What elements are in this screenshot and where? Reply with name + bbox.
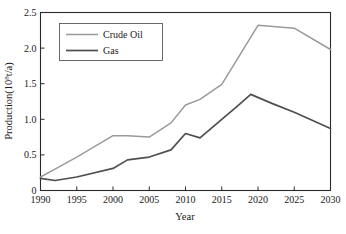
y-axis-ticks [41, 13, 45, 191]
x-tick-label-1995: 1995 [67, 194, 87, 205]
y-axis-tick-labels: 00.51.01.52.02.5 [24, 7, 37, 196]
x-tick-label-2030: 2030 [321, 194, 341, 205]
y-axis-title: Production(108t/a) [3, 62, 15, 140]
x-tick-label-2000: 2000 [103, 194, 123, 205]
x-tick-label-2015: 2015 [212, 194, 232, 205]
y-tick-label-1.5: 1.5 [24, 78, 37, 89]
y-tick-label-0: 0 [32, 185, 37, 196]
y-axis-title-text: Production(108t/a) [3, 62, 15, 140]
x-axis-title: Year [175, 211, 195, 222]
legend: Crude Oil Gas [60, 24, 163, 61]
x-axis-tick-labels: 199019952000200520102015202020252030 [31, 194, 341, 205]
y-tick-label-2.5: 2.5 [24, 7, 37, 18]
x-tick-label-2025: 2025 [284, 194, 304, 205]
figure-container: 199019952000200520102015202020252030 00.… [0, 0, 346, 234]
y-tick-label-2.0: 2.0 [24, 43, 37, 54]
x-tick-label-2020: 2020 [248, 194, 268, 205]
legend-label-gas: Gas [103, 45, 119, 56]
legend-label-crude-oil: Crude Oil [103, 29, 143, 40]
y-tick-label-0.5: 0.5 [24, 149, 37, 160]
y-tick-label-1.0: 1.0 [24, 114, 37, 125]
x-tick-label-2010: 2010 [176, 194, 196, 205]
series-line-gas [41, 94, 331, 180]
y-axis-title-base: Production(10 [3, 80, 15, 140]
y-axis-title-suffix: t/a) [3, 62, 15, 76]
x-tick-label-2005: 2005 [139, 194, 159, 205]
line-chart: 199019952000200520102015202020252030 00.… [0, 0, 346, 234]
x-axis-ticks [41, 187, 331, 191]
